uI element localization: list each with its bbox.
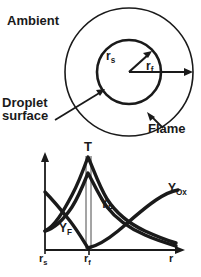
x-tick-label-rf-subscript: f xyxy=(88,258,91,267)
curve-label-oxidizer-subscript: Ox xyxy=(176,188,187,197)
x-tick-label-rs: rs xyxy=(39,253,47,267)
schematic-rf-label: rf xyxy=(146,60,153,76)
curve-fuel-mass-fraction xyxy=(45,192,88,248)
curve-label-oxidizer: YOx xyxy=(168,182,187,198)
droplet-surface-leader-arrow xyxy=(55,89,105,120)
droplet-combustion-figure: Ambient Droplet surface Flame rs rf T YO… xyxy=(0,0,201,277)
schematic-group xyxy=(55,8,193,136)
curve-label-fuel-base: Y xyxy=(59,221,67,235)
schematic-rs-subscript: s xyxy=(111,56,116,65)
curve-label-product: YP xyxy=(100,198,113,214)
droplet-surface-label: Droplet surface xyxy=(2,96,48,122)
curve-label-temperature: T xyxy=(84,140,92,153)
x-tick-label-rf: rf xyxy=(84,253,91,267)
x-axis-label: r xyxy=(169,253,173,264)
curve-label-fuel-subscript: F xyxy=(67,228,72,237)
schematic-rf-subscript: f xyxy=(151,66,154,75)
flame-label: Flame xyxy=(148,122,186,135)
curve-label-product-base: Y xyxy=(100,197,108,211)
x-tick-label-rs-subscript: s xyxy=(43,258,47,267)
y-axis xyxy=(41,152,49,250)
ambient-label: Ambient xyxy=(7,14,59,27)
curve-label-product-subscript: P xyxy=(108,204,113,213)
x-axis xyxy=(45,246,185,254)
curve-label-fuel: YF xyxy=(59,222,72,238)
droplet-surface-label-line2: surface xyxy=(2,109,48,122)
schematic-rs-label: rs xyxy=(106,50,115,66)
curve-label-oxidizer-base: Y xyxy=(168,181,176,195)
figure-vector-canvas xyxy=(0,0,201,277)
